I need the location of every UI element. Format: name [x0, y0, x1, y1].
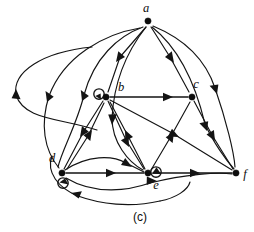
node-label-b: b: [118, 80, 124, 94]
node-d[interactable]: [59, 170, 65, 176]
edge-d-to-b: [67, 103, 104, 169]
edge-d-to-e: [66, 169, 144, 178]
node-label-d: d: [49, 151, 56, 165]
node-f[interactable]: [233, 170, 239, 176]
node-label-e: e: [153, 178, 159, 192]
edge-a-to-b: [108, 27, 146, 92]
edge-a-to-c: [151, 27, 189, 92]
graph-figure: a b c d e f (c): [0, 0, 254, 232]
self-loop-d: [58, 178, 69, 188]
node-c[interactable]: [189, 94, 195, 100]
self-loop-b: [94, 89, 104, 100]
edge-d-to-e-curved: [65, 158, 144, 172]
node-label-a: a: [143, 1, 149, 15]
node-label-c: c: [193, 77, 199, 91]
self-loop-e: [151, 167, 161, 177]
node-b[interactable]: [103, 94, 109, 100]
directed-graph-svg: a b c d e f (c): [0, 0, 254, 232]
edge-a-to-d-outer: [44, 28, 140, 168]
node-e[interactable]: [145, 170, 151, 176]
figure-caption: (c): [133, 210, 147, 224]
edge-e-to-c: [151, 102, 190, 170]
node-label-f: f: [243, 167, 248, 181]
edge-f-to-d-bottom: [50, 156, 190, 205]
node-a[interactable]: [145, 18, 151, 24]
edge-f-to-d-outer: [12, 47, 97, 130]
